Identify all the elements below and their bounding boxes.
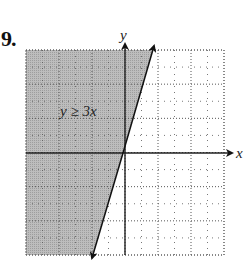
x-axis-label: x xyxy=(235,145,243,161)
inequality-graph: x y y ≥ 3x xyxy=(0,0,249,264)
y-axis-label: y xyxy=(118,27,127,43)
inequality-label: y ≥ 3x xyxy=(58,103,97,119)
